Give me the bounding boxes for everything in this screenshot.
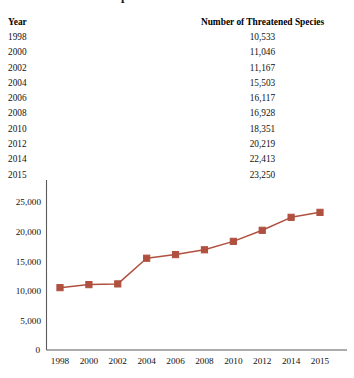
x-tick-label: 2002 [109,356,128,366]
cell-count: 18,351 [185,122,354,137]
x-tick-label: 2010 [224,356,243,366]
y-tick-label: 10,000 [16,286,42,296]
data-point-marker [317,209,323,215]
cell-year: 2000 [0,45,185,60]
column-header-year: Year [0,14,185,30]
cell-count: 11,046 [185,45,354,60]
x-tick-label: 2004 [137,356,156,366]
table-row: 200816,928 [0,106,354,121]
table-row: 201018,351 [0,122,354,137]
x-tick-label: 2000 [80,356,99,366]
cell-count: 20,219 [185,137,354,152]
x-axis-tick-labels: 1998200020022004200620082010201220142015 [51,356,330,366]
x-tick-label: 2006 [166,356,185,366]
cell-year: 2010 [0,122,185,137]
column-header-count: Number of Threatened Species [185,14,354,30]
cell-count: 11,167 [185,61,354,76]
cell-count: 10,533 [185,30,354,45]
x-tick-label: 2008 [195,356,214,366]
data-point-marker [201,247,207,253]
cell-count: 16,928 [185,106,354,121]
y-axis-tick-labels: 05,00010,00015,00020,00025,000 [16,197,42,355]
data-point-marker [86,282,92,288]
threatened-species-table: Year Number of Threatened Species 199810… [0,14,354,183]
data-point-marker [144,255,150,261]
cell-count: 16,117 [185,91,354,106]
data-point-marker [288,214,294,220]
y-tick-label: 20,000 [16,227,42,237]
data-point-marker [57,285,63,291]
table-row: 200211,167 [0,61,354,76]
table-row: 201220,219 [0,137,354,152]
table-row: 201422,413 [0,152,354,167]
x-tick-label: 2015 [311,356,330,366]
table-row: 200616,117 [0,91,354,106]
table-header-row: Year Number of Threatened Species [0,14,354,30]
cell-year: 2008 [0,106,185,121]
chart-svg: 05,00010,00015,00020,00025,000 199820002… [0,178,354,378]
table-row: 199810,533 [0,30,354,45]
cell-count: 15,503 [185,76,354,91]
x-tick-label: 2014 [282,356,301,366]
y-tick-label: 5,000 [20,316,41,326]
cell-year: 2014 [0,152,185,167]
y-tick-label: 25,000 [16,197,42,207]
table-row: 200415,503 [0,76,354,91]
cell-year: 2006 [0,91,185,106]
data-point-marker [230,238,236,244]
cell-count: 22,413 [185,152,354,167]
table-row: 200011,046 [0,45,354,60]
figure-title: Rise in Threatened Species [8,0,154,4]
y-tick-label: 0 [35,345,40,355]
data-point-marker [259,227,265,233]
cell-year: 2004 [0,76,185,91]
x-tick-label: 1998 [51,356,70,366]
data-point-marker [115,281,121,287]
x-tick-label: 2012 [253,356,272,366]
cell-year: 1998 [0,30,185,45]
cell-year: 2012 [0,137,185,152]
series-line-threatened-species [60,212,320,287]
table-body: 199810,533200011,046200211,167200415,503… [0,30,354,183]
data-point-marker [172,251,178,257]
y-tick-label: 15,000 [16,257,42,267]
table-header: Year Number of Threatened Species [0,14,354,30]
cell-year: 2002 [0,61,185,76]
line-chart: 05,00010,00015,00020,00025,000 199820002… [0,178,354,378]
